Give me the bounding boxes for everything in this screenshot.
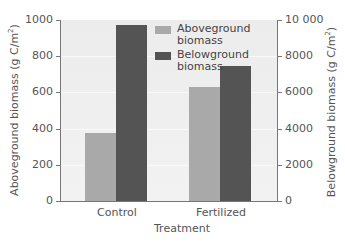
x-category-control: Control: [77, 206, 157, 219]
tick-label-left: 200: [32, 159, 53, 171]
legend-label: biomass: [177, 61, 249, 73]
tick-right: [278, 129, 282, 130]
x-axis-title: Treatment: [142, 222, 222, 235]
x-axis: [60, 201, 278, 202]
tick-right: [278, 201, 282, 202]
tick-label-right: 6000: [285, 86, 313, 98]
legend-item-belowground: Belowgroundbiomass: [155, 49, 250, 73]
x-category-fertilized: Fertilized: [181, 206, 261, 219]
tick-label-right: 10 000: [285, 14, 324, 26]
bar-control-aboveground: [85, 133, 116, 201]
tick-right: [278, 56, 282, 57]
tick-label-left: 400: [32, 123, 53, 135]
legend: Abovegroundbiomass Belowgroundbiomass: [155, 23, 250, 75]
tick-label-left: 1000: [25, 14, 53, 26]
tick-left: [56, 165, 60, 166]
tick-label-left: 800: [32, 50, 53, 62]
right-axis: [277, 20, 278, 202]
tick-left: [56, 129, 60, 130]
bar-control-belowground: [116, 25, 147, 201]
tick-label-right: 0: [285, 195, 292, 207]
tick-left: [56, 201, 60, 202]
tick-left: [56, 20, 60, 21]
y-axis-title-left: Aboveground biomass (g C/m2): [7, 24, 21, 196]
tick-left: [56, 92, 60, 93]
tick-label-right: 2000: [285, 159, 313, 171]
tick-label-left: 600: [32, 86, 53, 98]
bar-fertilized-belowground: [220, 66, 251, 201]
legend-swatch-aboveground: [155, 26, 171, 34]
bar-fertilized-aboveground: [189, 87, 220, 201]
left-axis: [60, 20, 61, 202]
tick-label-left: 0: [46, 195, 53, 207]
tick-right: [278, 92, 282, 93]
y-axis-title-right: Belowground biomass (g C/m2): [324, 27, 338, 197]
legend-swatch-belowground: [155, 52, 171, 60]
tick-label-right: 8000: [285, 50, 313, 62]
tick-label-right: 4000: [285, 123, 313, 135]
tick-left: [56, 56, 60, 57]
legend-item-aboveground: Abovegroundbiomass: [155, 23, 250, 47]
tick-right: [278, 165, 282, 166]
legend-label: biomass: [177, 35, 250, 47]
tick-right: [278, 20, 282, 21]
